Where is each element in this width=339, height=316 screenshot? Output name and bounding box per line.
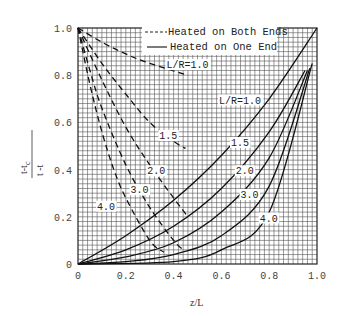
curve-label: 1.5: [231, 138, 249, 149]
curve-label: L/R=1.0: [219, 96, 261, 107]
x-tick-label: 0.6: [212, 271, 230, 282]
curve-label: 4.0: [260, 214, 278, 225]
curve-label: 2.0: [236, 166, 254, 177]
curve-label: 4.0: [97, 202, 115, 213]
curve-label: 3.0: [241, 190, 259, 201]
legend-label-both-ends: Heated on Both Ends: [168, 26, 288, 38]
y-tick-label: 0.4: [54, 166, 72, 177]
legend: Heated on Both Ends Heated on One End: [142, 23, 288, 55]
x-tick-label: 0: [75, 271, 81, 282]
curve-label: 1.5: [159, 131, 177, 142]
curve-one-end-4-0: [78, 63, 312, 264]
legend-label-one-end: Heated on One End: [170, 41, 277, 53]
y-axis-label: t-tc t -t: [18, 130, 45, 178]
curve-label: 2.0: [147, 166, 165, 177]
svg-text:t -t: t -t: [34, 164, 45, 176]
y-tick-label: 1.0: [54, 24, 72, 35]
x-tick-label: 0.4: [165, 271, 183, 282]
curve-label: 3.0: [131, 185, 149, 196]
curve-one-end-1-5: [78, 70, 305, 264]
x-tick-label: 0.2: [117, 271, 135, 282]
y-tick-label: 0: [66, 260, 72, 271]
x-tick-label: 1.0: [308, 271, 326, 282]
x-axis-ticks: 00.20.40.60.81.0: [75, 271, 326, 282]
x-tick-label: 0.8: [260, 271, 278, 282]
y-tick-label: 0.6: [54, 118, 72, 129]
svg-text:t-tc: t-tc: [18, 161, 32, 174]
chart: L/R=1.01.52.03.04.0L/R=1.01.52.03.04.0 0…: [0, 0, 339, 316]
y-axis-ticks: 00.20.40.60.81.0: [54, 24, 72, 271]
y-tick-label: 0.8: [54, 71, 72, 82]
y-tick-label: 0.2: [54, 213, 72, 224]
x-axis-label: z/L: [190, 297, 203, 308]
curve-label: L/R=1.0: [166, 60, 208, 71]
